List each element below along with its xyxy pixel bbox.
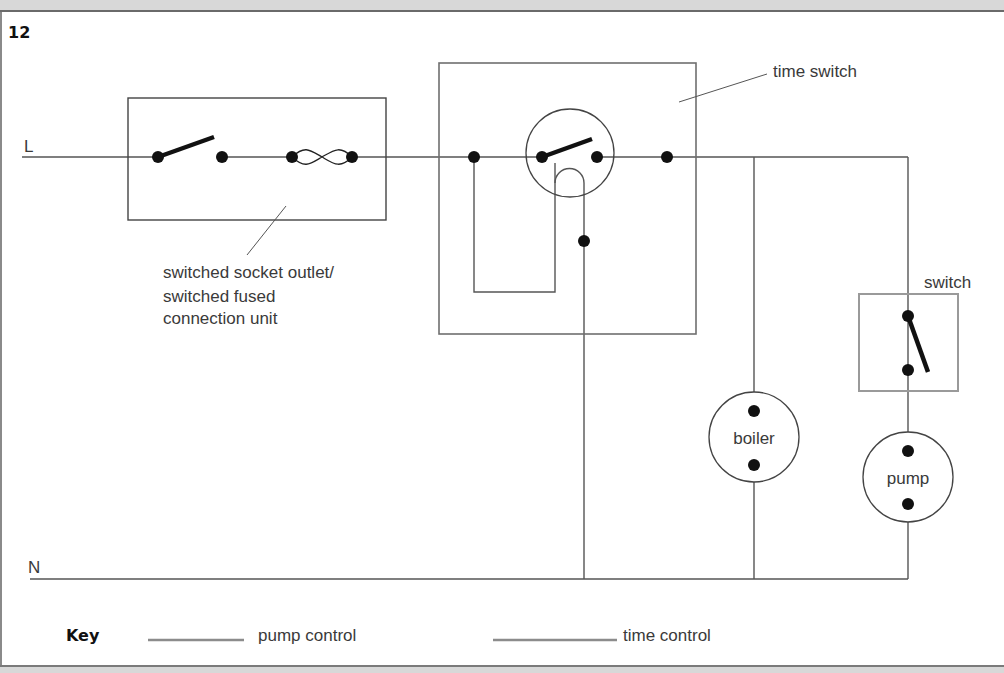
- terminal: [346, 151, 358, 163]
- key-title: Key: [66, 626, 100, 645]
- fuse-icon: [292, 150, 352, 164]
- time-switch-box: [439, 63, 696, 334]
- terminal: [578, 235, 590, 247]
- socket-leader-line: [247, 206, 286, 255]
- key-label-time-control: time control: [623, 626, 711, 645]
- pump-switch-lever: [908, 316, 928, 372]
- time-switch-lever: [542, 139, 592, 157]
- wiring-diagram: 12 L N switched socket outlet/ switched …: [0, 0, 1004, 673]
- terminal: [748, 459, 760, 471]
- pump-label: pump: [887, 469, 930, 488]
- terminal: [902, 445, 914, 457]
- socket-label-line3: connection unit: [163, 309, 278, 328]
- figure-number: 12: [8, 23, 30, 42]
- socket-label-line1: switched socket outlet/: [163, 263, 334, 282]
- terminal: [902, 364, 914, 376]
- terminal: [661, 151, 673, 163]
- terminal: [591, 151, 603, 163]
- bottom-frame-band: [0, 665, 1004, 673]
- terminal: [748, 405, 760, 417]
- terminal: [902, 310, 914, 322]
- live-label: L: [24, 137, 33, 156]
- key-label-pump-control: pump control: [258, 626, 356, 645]
- terminal: [902, 498, 914, 510]
- switch-label: switch: [924, 273, 971, 292]
- boiler-label: boiler: [733, 429, 775, 448]
- terminal: [468, 151, 480, 163]
- terminal: [216, 151, 228, 163]
- time-switch-label: time switch: [773, 62, 857, 81]
- terminal: [286, 151, 298, 163]
- socket-switch-lever: [158, 137, 214, 157]
- time-switch-leader-line: [679, 74, 767, 102]
- terminal: [536, 151, 548, 163]
- terminal: [152, 151, 164, 163]
- socket-label-line2: switched fused: [163, 287, 275, 306]
- neutral-label: N: [28, 558, 40, 577]
